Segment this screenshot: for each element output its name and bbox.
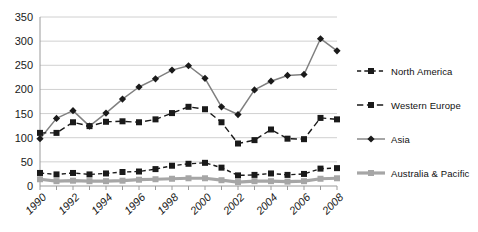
data-point-marker xyxy=(37,176,43,182)
data-point-marker xyxy=(252,137,258,143)
legend-item-western-europe[interactable]: Western Europe xyxy=(356,98,461,112)
x-axis-tick-label: 1992 xyxy=(56,191,82,217)
data-point-marker xyxy=(153,116,159,122)
data-point-marker xyxy=(318,176,324,182)
data-point-marker xyxy=(186,161,192,167)
data-point-marker xyxy=(136,177,142,183)
data-point-marker xyxy=(368,102,374,108)
x-axis-tick-label: 1994 xyxy=(89,191,115,217)
data-point-marker xyxy=(54,178,60,184)
data-point-marker xyxy=(153,176,159,182)
data-point-marker xyxy=(219,119,225,125)
data-point-marker xyxy=(219,177,225,183)
data-point-marker xyxy=(169,110,175,116)
data-point-marker xyxy=(318,166,324,172)
data-point-marker xyxy=(267,78,274,85)
data-point-marker xyxy=(103,119,109,125)
data-point-marker xyxy=(219,165,225,171)
y-axis-tick-label: 100 xyxy=(15,132,33,144)
data-point-marker xyxy=(186,175,192,181)
y-axis-tick-label: 50 xyxy=(21,156,33,168)
x-axis-tick-label: 2004 xyxy=(253,191,280,218)
data-point-marker xyxy=(168,67,175,74)
chart-legend: North America Western Europe Asia Austra… xyxy=(356,64,478,186)
x-axis-tick-label: 1998 xyxy=(155,190,181,216)
y-axis-tick-label: 0 xyxy=(27,180,33,192)
data-point-marker xyxy=(152,75,159,82)
legend-swatch-australia-pacific xyxy=(356,167,386,179)
data-point-marker xyxy=(153,166,159,172)
data-point-marker xyxy=(318,115,324,121)
legend-label-western-europe: Western Europe xyxy=(391,100,461,111)
data-point-marker xyxy=(334,165,340,171)
data-point-marker xyxy=(334,116,340,122)
data-point-marker xyxy=(103,170,109,176)
data-point-marker xyxy=(368,68,374,74)
series-line xyxy=(37,104,340,147)
data-point-marker xyxy=(169,163,175,169)
data-point-marker xyxy=(301,171,307,177)
data-point-marker xyxy=(70,178,76,184)
legend-label-asia: Asia xyxy=(391,134,410,145)
data-point-marker xyxy=(202,106,208,112)
data-point-marker xyxy=(284,72,291,79)
data-point-marker xyxy=(70,119,76,125)
data-point-marker xyxy=(120,169,126,175)
data-point-marker xyxy=(103,178,109,184)
data-point-marker xyxy=(169,176,175,182)
legend-item-australia-pacific[interactable]: Australia & Pacific xyxy=(356,166,469,180)
data-point-marker xyxy=(367,135,374,142)
data-point-marker xyxy=(87,171,93,177)
series-line xyxy=(37,175,340,185)
data-point-marker xyxy=(235,179,241,185)
x-axis-tick-label: 2002 xyxy=(220,191,247,218)
data-point-marker xyxy=(120,178,126,184)
x-axis-tick-label: 2006 xyxy=(286,190,313,217)
x-axis-tick-label: 2000 xyxy=(187,190,214,217)
data-point-marker xyxy=(268,127,274,133)
data-point-marker xyxy=(300,71,307,78)
data-point-marker xyxy=(54,130,60,136)
data-point-marker xyxy=(37,170,43,176)
legend-swatch-north-america xyxy=(356,65,386,77)
data-point-marker xyxy=(268,178,274,184)
y-axis-tick-label: 250 xyxy=(15,59,33,71)
y-axis-tick-label: 200 xyxy=(15,83,33,95)
data-point-marker xyxy=(186,104,192,110)
data-point-marker xyxy=(218,103,225,110)
series-line xyxy=(36,35,340,142)
x-axis-tick-label: 2008 xyxy=(319,190,346,217)
data-point-marker xyxy=(268,170,274,176)
data-point-marker xyxy=(235,172,241,178)
data-point-marker xyxy=(235,141,241,147)
legend-label-north-america: North America xyxy=(391,66,453,77)
data-point-marker xyxy=(136,169,142,175)
legend-swatch-asia xyxy=(356,133,386,145)
y-axis-tick-label: 150 xyxy=(15,108,33,120)
line-chart: 0501001502002503003501990199219941996199… xyxy=(0,0,478,232)
x-axis-tick-label: 1990 xyxy=(23,190,49,216)
data-point-marker xyxy=(202,175,208,181)
data-point-marker xyxy=(87,178,93,184)
data-point-marker xyxy=(202,160,208,166)
data-point-marker xyxy=(285,136,291,142)
data-point-marker xyxy=(120,118,126,124)
data-point-marker xyxy=(252,172,258,178)
y-axis-tick-label: 350 xyxy=(15,11,33,23)
legend-label-australia-pacific: Australia & Pacific xyxy=(391,168,469,179)
x-axis-tick-label: 1996 xyxy=(122,190,148,216)
data-point-marker xyxy=(136,119,142,125)
data-point-marker xyxy=(301,178,307,184)
legend-item-asia[interactable]: Asia xyxy=(356,132,410,146)
data-point-marker xyxy=(87,123,93,129)
data-point-marker xyxy=(368,170,374,176)
data-point-marker xyxy=(334,175,340,181)
data-point-marker xyxy=(285,172,291,178)
data-point-marker xyxy=(252,178,258,184)
data-point-marker xyxy=(285,179,291,185)
legend-item-north-america[interactable]: North America xyxy=(356,64,453,78)
data-point-marker xyxy=(301,136,307,142)
data-point-marker xyxy=(54,171,60,177)
data-point-marker xyxy=(37,130,43,136)
data-point-marker xyxy=(70,170,76,176)
